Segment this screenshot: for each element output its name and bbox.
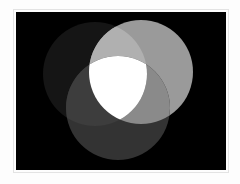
figure-root: [0, 0, 240, 184]
venn-diagram-svg: [16, 12, 226, 170]
venn-diagram-panel: [16, 12, 226, 170]
